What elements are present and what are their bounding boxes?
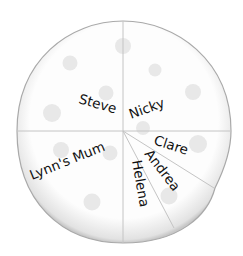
- pizza-diagram: Steve Nicky Lynn's Mum Clare Andrea Hele…: [0, 0, 243, 256]
